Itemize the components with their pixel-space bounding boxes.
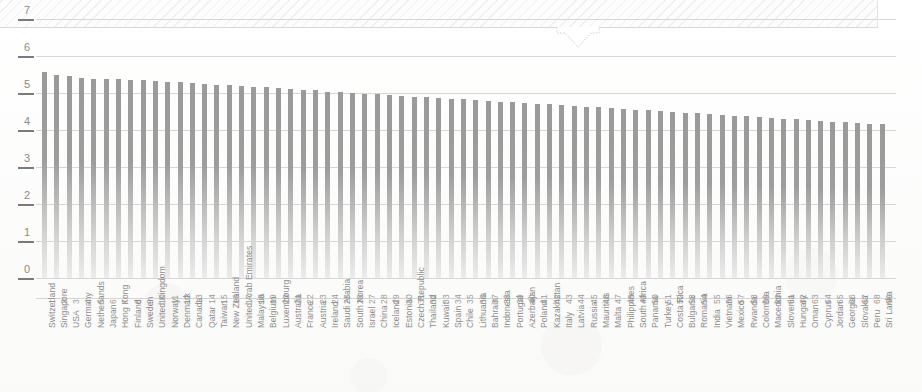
bar (375, 94, 380, 278)
bar (830, 122, 835, 279)
bar (399, 96, 404, 278)
bar (387, 95, 392, 278)
rank-label: 35 (465, 294, 475, 304)
rank-label: 34 (453, 294, 463, 304)
country-label: Russia (589, 301, 599, 328)
country-label: Romania (699, 293, 709, 328)
country-label: Austria (318, 301, 328, 328)
y-tick-7 (18, 19, 34, 21)
country-label: Spain (453, 306, 463, 328)
country-label: Japan (108, 304, 118, 328)
bar (153, 81, 158, 278)
country-label: Canada (194, 298, 204, 328)
bar (707, 114, 712, 278)
bar (54, 75, 59, 278)
country-label: Finland (133, 299, 143, 328)
country-label: Netherlands (96, 281, 106, 328)
rank-label: 63 (810, 294, 820, 304)
rank-label: 68 (872, 294, 882, 304)
country-label: Germany (83, 292, 93, 328)
bar (757, 117, 762, 278)
country-label: Georgia (847, 297, 857, 328)
country-label: Ireland (330, 301, 340, 328)
bar (498, 102, 503, 278)
y-tick-label-3: 3 (16, 153, 30, 164)
bar (843, 122, 848, 278)
country-label: Portugal (515, 296, 525, 328)
country-label: Slovenia (786, 295, 796, 328)
gridline-7 (36, 19, 896, 20)
bar (128, 80, 133, 278)
bar (609, 108, 614, 278)
country-label: Rwanda (749, 296, 759, 328)
y-tick-2 (18, 204, 34, 206)
bar (695, 113, 700, 278)
bar (276, 88, 281, 278)
country-label: Kuwait (441, 302, 451, 328)
country-label: Macedonia (773, 286, 783, 328)
y-tick-label-6: 6 (16, 42, 30, 53)
y-tick-3 (18, 167, 34, 169)
bar (264, 87, 269, 278)
country-label: India (712, 309, 722, 328)
y-tick-label-7: 7 (16, 5, 30, 16)
bar (288, 89, 293, 278)
bar (683, 113, 688, 278)
bar (67, 76, 72, 278)
bar (522, 103, 527, 278)
bar (325, 92, 330, 278)
country-label: United Arab Emirates (244, 246, 254, 328)
country-label: Latvia (576, 305, 586, 328)
country-label: Slovakia (860, 295, 870, 328)
country-label: Singapore (59, 288, 69, 328)
country-label: Australia (293, 294, 303, 328)
country-label: Saudi Arabia (342, 279, 352, 328)
bar (116, 79, 121, 278)
country-label: Bahrain (490, 298, 500, 328)
chart-page: 01234567 1Switzerland2Singapore3USA4Germ… (0, 0, 922, 392)
country-label: Hong Kong (120, 285, 130, 328)
gridline-6 (36, 56, 896, 57)
country-label: United Kingdom (157, 266, 167, 328)
bar (867, 124, 872, 278)
bar (412, 97, 417, 278)
country-label: Czech Republic (416, 267, 426, 328)
bar (313, 90, 318, 278)
country-label: Jordan (835, 301, 845, 328)
country-label: Italy (564, 312, 574, 328)
country-label: Panama (650, 296, 660, 328)
y-tick-0 (18, 278, 34, 280)
country-label: Peru (872, 310, 882, 328)
bar (350, 93, 355, 278)
bar (227, 85, 232, 278)
bar (202, 84, 207, 278)
y-tick-label-1: 1 (16, 227, 30, 238)
bar (214, 85, 219, 279)
rank-label: 55 (712, 294, 722, 304)
country-label: Hungary (798, 295, 808, 328)
country-label: Poland (539, 301, 549, 328)
country-label: Sweden (145, 297, 155, 328)
bar (584, 107, 589, 278)
bar (338, 92, 343, 278)
bar (720, 115, 725, 278)
bar (79, 78, 84, 278)
country-label: South Korea (355, 280, 365, 328)
country-label: Philippines (626, 286, 636, 328)
bar (732, 116, 737, 278)
country-label: Luxembourg (281, 280, 291, 328)
country-label: Israel (367, 307, 377, 328)
bar (633, 110, 638, 278)
rank-label: 28 (379, 294, 389, 304)
country-label: Colombia (761, 291, 771, 328)
country-label: Switzerland (47, 283, 57, 328)
country-label: Norway (170, 299, 180, 328)
bar (141, 80, 146, 278)
bar (547, 104, 552, 278)
y-tick-label-2: 2 (16, 190, 30, 201)
country-label: Indonesia (502, 290, 512, 328)
country-label: Chile (465, 308, 475, 328)
plot-area: 01234567 (36, 18, 896, 280)
y-tick-4 (18, 130, 34, 132)
y-tick-label-4: 4 (16, 116, 30, 127)
